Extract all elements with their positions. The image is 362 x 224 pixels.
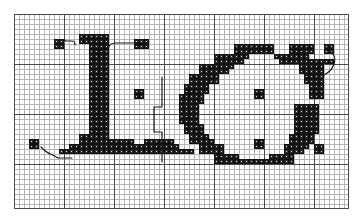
- stitch-cell: [309, 49, 314, 54]
- stitch-cell: [314, 129, 319, 134]
- stitch-cell: [229, 64, 234, 69]
- stitch-cell: [144, 44, 149, 49]
- stitch-cell: [224, 69, 229, 74]
- stitch-cell: [299, 149, 304, 154]
- stitch-cell: [214, 79, 219, 84]
- stitch-cell: [34, 144, 39, 149]
- stitch-cell: [259, 94, 264, 99]
- stitch-cell: [139, 94, 144, 99]
- stitch-cell: [204, 89, 209, 94]
- stitch-cell: [329, 49, 334, 54]
- stitch-cell: [59, 44, 64, 49]
- stitch-cell: [289, 154, 294, 159]
- stitch-cell: [289, 159, 294, 164]
- stitch-cell: [329, 59, 334, 64]
- stitch-cell: [319, 149, 324, 154]
- stitch-cell: [189, 149, 194, 154]
- cross-stitch-chart: [0, 0, 362, 224]
- stitch-cell: [199, 99, 204, 104]
- stitch-cell: [259, 144, 264, 149]
- stitch-cell: [244, 54, 249, 59]
- stitch-cell: [239, 59, 244, 64]
- chart-grid-area: [14, 14, 349, 209]
- stitch-cell: [319, 94, 324, 99]
- stitch-cell: [304, 144, 309, 149]
